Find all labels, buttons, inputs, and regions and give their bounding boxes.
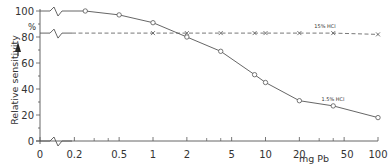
x-tick-label: 10: [259, 149, 272, 160]
axis-break: [40, 137, 72, 146]
circle-marker: [376, 115, 380, 119]
x-tick-label: 0.2: [66, 149, 82, 160]
x-tick-label: 50: [341, 149, 354, 160]
x-tick-label: 100: [368, 149, 387, 160]
circle-marker: [263, 80, 267, 84]
circle-marker: [151, 21, 155, 25]
y-unit-label: %: [28, 22, 36, 32]
circle-marker: [331, 104, 335, 108]
axis-break: [40, 29, 72, 38]
y-tick-label: 40: [21, 84, 34, 95]
x-tick-label: 0.5: [111, 149, 127, 160]
y-tick-label: 60: [21, 58, 34, 69]
series-label-1-5pct: 1.5% HCl: [322, 96, 345, 102]
circle-marker: [252, 73, 256, 77]
circle-marker: [297, 99, 301, 103]
series-label-15pct: 15% HCl: [314, 23, 335, 29]
y-tick-label: 100: [15, 6, 34, 17]
circle-marker: [185, 35, 189, 39]
chart-canvas: 02040608010000.20.5125102050100 Relative…: [0, 0, 390, 165]
x-tick-label: 1: [150, 149, 156, 160]
y-tick-label: 80: [21, 32, 34, 43]
y-tick-label: 20: [21, 110, 34, 121]
circle-marker: [83, 9, 87, 13]
circle-marker: [117, 13, 121, 17]
y-tick-label: 0: [28, 136, 34, 147]
x-tick-label: 2: [184, 149, 190, 160]
circle-marker: [219, 49, 223, 53]
y-axis-label: Relative sensitivity: [9, 35, 20, 125]
axis-break: [40, 7, 72, 16]
labels-layer: Relative sensitivity % mg Pb 15% HCl 1.5…: [9, 22, 344, 164]
x-unit-label: mg Pb: [299, 153, 329, 164]
x-marker: [376, 32, 380, 36]
x-tick-label: 0: [37, 149, 43, 160]
sensitivity-chart: 02040608010000.20.5125102050100 Relative…: [0, 0, 390, 165]
x-tick-label: 5: [228, 149, 234, 160]
